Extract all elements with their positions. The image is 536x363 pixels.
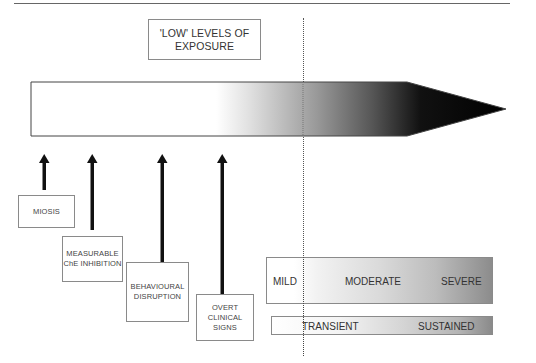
effect-label: CLINICAL	[208, 313, 243, 323]
effect-box-overt-clinical-signs: OVERT CLINICAL SIGNS	[196, 294, 254, 341]
threshold-dotted-line-overlay	[303, 257, 304, 356]
effect-label: ChE INHIBITION	[63, 259, 121, 269]
duration-sustained: SUSTAINED	[418, 320, 475, 331]
exposure-arrow	[0, 0, 536, 363]
duration-scale: TRANSIENT SUSTAINED	[271, 316, 493, 335]
effect-label: OVERT	[208, 303, 243, 313]
effect-label: SIGNS	[208, 323, 243, 333]
effect-box-behavioural-disruption: BEHAVIOURAL DISRUPTION	[126, 262, 189, 322]
severity-scale: MILD MODERATE SEVERE	[266, 257, 493, 304]
severity-moderate: MODERATE	[345, 275, 401, 286]
effect-label: DISRUPTION	[131, 292, 185, 302]
effect-label: BEHAVIOURAL	[131, 282, 185, 292]
severity-severe: SEVERE	[441, 275, 482, 286]
effect-label: MEASURABLE	[63, 249, 121, 259]
severity-mild: MILD	[273, 275, 297, 286]
duration-transient: TRANSIENT	[302, 320, 359, 331]
effect-box-miosis: MIOSIS	[18, 195, 75, 228]
effect-box-che-inhibition: MEASURABLE ChE INHIBITION	[62, 236, 123, 282]
effect-label: MIOSIS	[33, 207, 60, 217]
